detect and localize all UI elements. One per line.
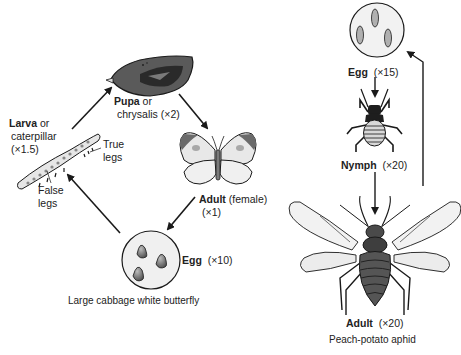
larva-alt: or: [40, 117, 49, 129]
pupa-scale: (×2): [161, 108, 180, 120]
aphid-egg-illustration: [350, 3, 404, 57]
larva-alt-name: caterpillar: [11, 130, 57, 143]
butterfly-egg-scale: (×10): [208, 254, 233, 266]
larva-name: Larva: [9, 117, 37, 129]
butterfly-egg-illustration: [122, 231, 180, 289]
butterfly-caption: Large cabbage white butterfly: [68, 295, 199, 306]
adult-aphid-scale: (×20): [379, 317, 404, 329]
nymph-label: Nymph (×20): [341, 159, 407, 172]
butterfly-egg-label: Egg (×10): [182, 254, 233, 267]
arrow-adult-to-egg-aphid: [408, 52, 423, 186]
arrow-pupa-to-adult: [179, 94, 207, 128]
pupa-alt-name: chrysalis: [117, 108, 158, 120]
aphid-egg-scale: (×15): [374, 66, 399, 78]
false-legs-label-line1: False: [38, 184, 64, 197]
adult-butterfly-name: Adult: [199, 193, 226, 205]
adult-aphid-name: Adult: [346, 317, 373, 329]
adult-butterfly-qualifier: (female): [229, 193, 268, 205]
adult-aphid-illustration: [289, 196, 461, 315]
arrow-adult-to-egg: [168, 197, 195, 229]
adult-butterfly-label: Adult (female): [199, 193, 267, 206]
butterfly-egg-name: Egg: [182, 254, 202, 266]
true-legs-label-line1: True: [103, 138, 124, 151]
aphid-caption: Peach-potato aphid: [329, 334, 416, 345]
pupa-name: Pupa: [114, 95, 140, 107]
aphid-egg-label: Egg (×15): [348, 66, 399, 79]
arrow-egg-to-larva: [68, 175, 120, 233]
pupa-alt: or: [143, 95, 152, 107]
pupa-label: Pupa or: [114, 95, 152, 108]
adult-butterfly-illustration: [180, 133, 256, 184]
false-legs-label-line2: legs: [38, 197, 57, 210]
nymph-illustration: [347, 89, 402, 152]
arrow-larva-to-pupa: [72, 88, 111, 129]
larva-scale: (×1.5): [11, 143, 39, 156]
nymph-name: Nymph: [341, 159, 377, 171]
true-legs-label-line2: legs: [103, 151, 122, 164]
adult-aphid-label: Adult (×20): [346, 317, 403, 330]
nymph-scale: (×20): [382, 159, 407, 171]
pupa-illustration: [106, 56, 193, 96]
larva-label: Larva or: [9, 117, 49, 130]
aphid-egg-name: Egg: [348, 66, 368, 78]
adult-butterfly-scale: (×1): [202, 206, 221, 219]
pupa-label-line2: chrysalis (×2): [117, 108, 180, 121]
